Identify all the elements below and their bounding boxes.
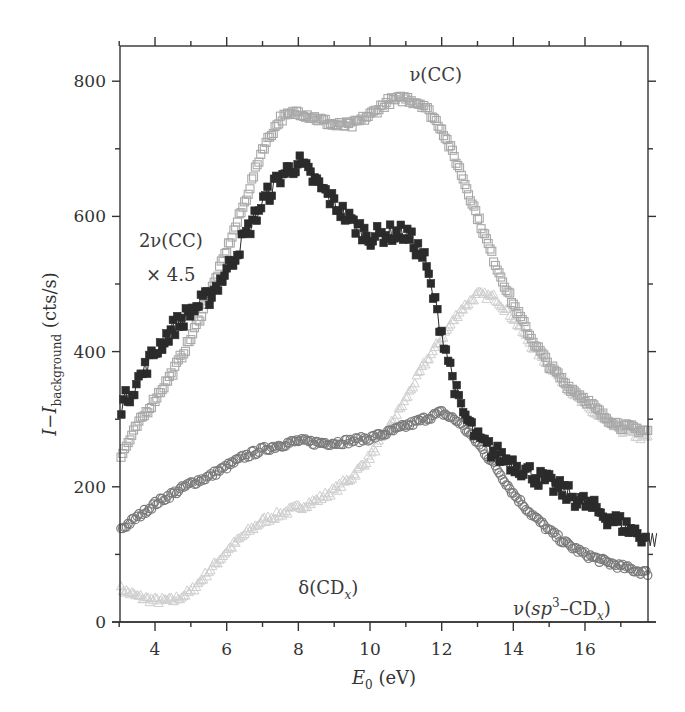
data-point <box>130 391 138 399</box>
x-tick-label: 8 <box>293 639 304 659</box>
data-point <box>141 358 149 366</box>
data-point <box>246 185 254 193</box>
data-point <box>195 303 203 311</box>
data-point <box>292 168 300 176</box>
series-open-square <box>117 92 652 461</box>
y-tick-label: 600 <box>74 206 106 226</box>
data-point <box>565 482 573 490</box>
data-point <box>171 331 179 339</box>
data-point <box>214 287 222 295</box>
data-point <box>185 338 193 346</box>
series-layer <box>116 92 656 606</box>
series-connector <box>119 156 656 547</box>
data-point <box>296 152 304 160</box>
data-point <box>455 391 463 399</box>
annotations: ν(CC)2ν(CC)× 4.5δ(CDx)ν(sp3–CDx) <box>139 64 611 623</box>
data-point <box>421 248 429 256</box>
annotation-scale-factor: × 4.5 <box>146 264 195 285</box>
annotation-nu-sp3-cdx: ν(sp3–CDx) <box>513 596 610 623</box>
data-point <box>233 218 241 226</box>
data-point <box>442 346 450 354</box>
data-point <box>465 191 473 199</box>
data-point <box>339 202 347 210</box>
annotation-nu-cc: ν(CC) <box>409 64 462 85</box>
x-tick-label: 10 <box>359 639 381 659</box>
data-point <box>591 496 599 504</box>
data-point <box>221 272 229 280</box>
data-point <box>360 224 368 232</box>
y-axis-title: I−Ibackground (cts/s) <box>39 272 64 437</box>
data-point <box>133 380 141 388</box>
x-axis-title: E0 (eV) <box>351 667 416 692</box>
data-point <box>264 183 272 191</box>
data-point <box>268 192 276 200</box>
data-point <box>406 236 414 244</box>
data-point <box>330 195 338 203</box>
data-point <box>250 173 258 181</box>
data-point <box>206 301 214 309</box>
data-point <box>513 462 521 470</box>
data-point <box>277 179 285 187</box>
y-tick-label: 800 <box>74 71 106 91</box>
x-tick-label: 14 <box>503 639 525 659</box>
data-point <box>414 240 422 248</box>
data-point <box>425 270 433 278</box>
data-point <box>208 294 216 302</box>
data-point <box>484 240 492 248</box>
data-point <box>454 162 462 170</box>
data-point <box>453 381 461 389</box>
data-point <box>434 305 442 313</box>
data-point <box>423 263 431 271</box>
annotation-delta-cdx: δ(CDx) <box>298 577 358 602</box>
data-point <box>499 278 507 286</box>
data-point <box>189 330 197 338</box>
data-point <box>232 223 240 231</box>
x-tick-label: 12 <box>431 639 453 659</box>
spectrum-chart: 468101214160200400600800E0 (eV)I−Ibackgr… <box>0 0 685 712</box>
data-point <box>431 293 439 301</box>
data-point <box>457 399 465 407</box>
data-point <box>118 411 126 419</box>
data-point <box>488 247 496 255</box>
plot-frame <box>120 46 648 622</box>
data-point <box>449 372 457 380</box>
data-point <box>485 437 493 445</box>
data-point <box>226 239 234 247</box>
data-point <box>468 419 476 427</box>
data-point <box>247 230 255 238</box>
annotation-two-nu-cc: 2ν(CC) <box>139 230 203 251</box>
x-tick-label: 4 <box>150 639 161 659</box>
data-point <box>248 175 256 183</box>
data-point <box>236 251 244 259</box>
data-point <box>438 327 446 335</box>
y-tick-label: 200 <box>74 477 106 497</box>
data-point <box>253 161 261 169</box>
data-point <box>216 262 224 270</box>
data-point <box>408 228 416 236</box>
data-point <box>446 359 454 367</box>
x-tick-label: 16 <box>574 639 596 659</box>
data-point <box>244 190 252 198</box>
y-tick-label: 400 <box>74 342 106 362</box>
data-point <box>180 323 188 331</box>
data-point <box>126 398 134 406</box>
data-point <box>143 370 151 378</box>
data-point <box>526 462 534 470</box>
x-tick-label: 6 <box>221 639 232 659</box>
data-point <box>253 217 261 225</box>
data-point <box>217 257 225 265</box>
data-point <box>427 280 435 288</box>
data-point <box>257 204 265 212</box>
data-point <box>486 245 494 253</box>
y-tick-label: 0 <box>95 612 106 632</box>
